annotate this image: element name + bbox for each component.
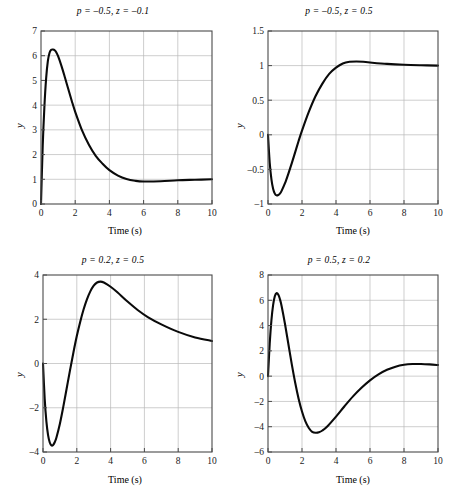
x-tick-label: 6: [141, 208, 146, 218]
y-tick-label: 4: [259, 321, 264, 331]
y-tick-label: 0: [32, 199, 37, 209]
y-tick-label: 1.5: [252, 26, 264, 36]
x-tick-label: 8: [176, 456, 181, 466]
x-tick-label: 10: [433, 208, 443, 218]
y-tick-label: 5: [32, 76, 37, 86]
x-tick-label: 8: [402, 456, 407, 466]
y-tick-label: 3: [32, 125, 37, 135]
y-tick-label: 0.5: [252, 96, 264, 106]
x-tick-label: 0: [266, 208, 271, 218]
x-tick-label: 10: [207, 208, 217, 218]
axes-frame: [268, 31, 438, 204]
panel-top-left: p = –0.5, z = –0.1 012345670246810 y Tim…: [0, 0, 226, 249]
y-tick-label: 4: [34, 270, 39, 280]
y-axis-label: y: [14, 372, 25, 377]
y-axis-label: y: [14, 123, 25, 128]
x-tick-label: 4: [334, 456, 339, 466]
plot-canvas-2: –4–20240246810: [0, 249, 226, 498]
x-tick-label: 2: [74, 456, 79, 466]
panel-title: p = 0.2, z = 0.5: [0, 255, 226, 265]
panel-top-right: p = –0.5, z = 0.5 –1–0.500.511.50246810 …: [226, 0, 452, 249]
x-tick-label: 2: [300, 208, 305, 218]
y-tick-label: 4: [32, 101, 37, 111]
y-tick-label: 0: [34, 359, 39, 369]
plot-1-content: –1–0.500.511.50246810: [246, 26, 443, 218]
panel-bottom-left: p = 0.2, z = 0.5 –4–20240246810 y Time (…: [0, 249, 226, 498]
x-tick-label: 6: [368, 456, 373, 466]
y-tick-label: 2: [32, 150, 37, 160]
y-tick-label: –4: [254, 422, 265, 432]
plot-3-content: –6–4–2024680246810: [254, 270, 444, 466]
data-curve: [268, 61, 438, 195]
y-tick-label: –6: [254, 447, 265, 457]
x-tick-label: 4: [107, 208, 112, 218]
x-tick-label: 4: [108, 456, 113, 466]
x-tick-label: 10: [433, 456, 443, 466]
plot-canvas-0: 012345670246810: [0, 0, 226, 249]
figure-grid: p = –0.5, z = –0.1 012345670246810 y Tim…: [0, 0, 452, 498]
x-tick-label: 6: [142, 456, 147, 466]
y-tick-label: 7: [32, 26, 37, 36]
y-tick-label: –0.5: [246, 165, 264, 175]
x-axis-label: Time (s): [12, 474, 238, 485]
x-tick-label: 10: [207, 456, 217, 466]
panel-bottom-right: p = 0.5, z = 0.2 –6–4–2024680246810 y Ti…: [226, 249, 452, 498]
x-axis-label: Time (s): [12, 225, 238, 236]
y-tick-label: 0: [259, 130, 264, 140]
x-tick-label: 6: [368, 208, 373, 218]
plot-0-content: 012345670246810: [32, 26, 217, 218]
y-tick-label: 2: [259, 346, 264, 356]
plot-canvas-3: –6–4–2024680246810: [226, 249, 452, 498]
y-tick-label: 0: [259, 372, 264, 382]
x-tick-label: 0: [39, 208, 44, 218]
y-tick-label: –4: [29, 447, 40, 457]
panel-title: p = 0.5, z = 0.2: [226, 255, 452, 265]
y-tick-label: 1: [259, 61, 264, 71]
panel-title: p = –0.5, z = 0.5: [226, 6, 452, 16]
x-axis-label: Time (s): [240, 225, 452, 236]
y-axis-label: y: [234, 123, 245, 128]
x-tick-label: 8: [175, 208, 180, 218]
data-curve: [268, 293, 438, 433]
x-tick-label: 2: [300, 456, 305, 466]
x-tick-label: 0: [266, 456, 271, 466]
plot-2-content: –4–20240246810: [29, 270, 218, 466]
y-tick-label: –1: [254, 199, 265, 209]
data-curve: [41, 49, 212, 204]
y-tick-label: 2: [34, 315, 39, 325]
x-tick-label: 0: [41, 456, 46, 466]
y-tick-label: 6: [32, 51, 37, 61]
x-tick-label: 8: [402, 208, 407, 218]
plot-canvas-1: –1–0.500.511.50246810: [226, 0, 452, 249]
x-tick-label: 4: [334, 208, 339, 218]
panel-title: p = –0.5, z = –0.1: [0, 6, 226, 16]
x-axis-label: Time (s): [240, 474, 452, 485]
y-tick-label: –2: [254, 397, 265, 407]
x-tick-label: 2: [73, 208, 78, 218]
y-axis-label: y: [234, 372, 245, 377]
y-tick-label: –2: [29, 403, 40, 413]
y-tick-label: 6: [259, 296, 264, 306]
y-tick-label: 1: [32, 175, 37, 185]
y-tick-label: 8: [259, 270, 264, 280]
